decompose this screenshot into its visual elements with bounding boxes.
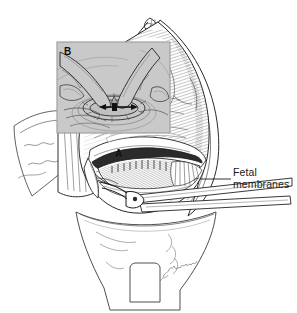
illustration-canvas bbox=[0, 0, 297, 313]
fetal-membranes-label-line2: membranes bbox=[233, 178, 289, 190]
surgical-illustration-figure: Fetal membranes A B bbox=[0, 0, 297, 313]
fetal-membranes-label: Fetal membranes bbox=[233, 166, 289, 190]
panel-label-a: A bbox=[115, 148, 122, 159]
panel-label-b: B bbox=[64, 46, 71, 57]
lower-surgical-drape bbox=[76, 212, 216, 310]
fetal-membranes-label-line1: Fetal bbox=[233, 166, 289, 178]
inset-panel-b bbox=[57, 42, 170, 133]
